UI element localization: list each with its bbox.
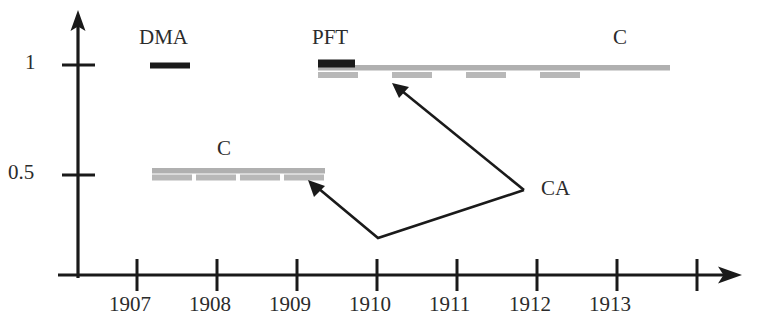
series-upper-label-c: C: [613, 27, 627, 48]
ca-annotation-leader-upper: [392, 83, 524, 190]
x-axis: [58, 267, 742, 284]
pft-label: PFT: [312, 27, 348, 48]
series-bar-lower: [152, 168, 325, 181]
ca-annotation-label: CA: [541, 178, 570, 199]
y-axis-tick-label-1: 1: [25, 52, 36, 73]
y-axis: [71, 10, 86, 278]
timeline-chart: 1 0.5 1907 1908 1909 1910 1911 1912 1913…: [0, 0, 764, 331]
x-axis-tick-label-1911: 1911: [429, 294, 470, 315]
series-lower-label-c: C: [217, 138, 231, 159]
dma-legend-swatch: [150, 63, 190, 69]
chart-canvas: [0, 0, 764, 331]
dma-label: DMA: [139, 27, 188, 48]
x-axis-tick-label-1907: 1907: [109, 294, 151, 315]
x-axis-tick-label-1913: 1913: [589, 294, 631, 315]
x-axis-tick-label-1909: 1909: [269, 294, 311, 315]
series-lower-dashes: [152, 175, 324, 181]
y-axis-tick-label-0point5: 0.5: [8, 162, 34, 183]
x-axis-tick-label-1908: 1908: [189, 294, 231, 315]
series-upper-dashes: [318, 72, 580, 78]
x-axis-tick-label-1912: 1912: [509, 294, 551, 315]
x-axis-tick-label-1910: 1910: [349, 294, 391, 315]
series-bar-upper: [318, 60, 670, 79]
ca-annotation-leader-lower: [308, 180, 524, 238]
pft-marker-segment: [318, 60, 355, 68]
